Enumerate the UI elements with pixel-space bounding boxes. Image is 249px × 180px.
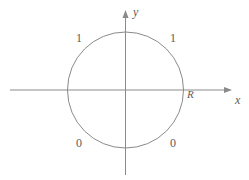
boundary-label-upper-left: 1 xyxy=(76,32,82,44)
boundary-label-lower-right: 0 xyxy=(170,137,176,149)
boundary-label-upper-right: 1 xyxy=(170,32,176,44)
y-axis-arrowhead-icon xyxy=(123,10,129,18)
radius-label: R xyxy=(187,89,194,100)
boundary-label-lower-left: 0 xyxy=(76,137,82,149)
y-axis-label: y xyxy=(133,6,138,18)
circle-boundary-value-diagram: 1 1 0 0 y x R xyxy=(0,0,249,180)
x-axis-label: x xyxy=(235,94,240,106)
x-axis-arrowhead-icon xyxy=(224,87,232,93)
diagram-canvas xyxy=(0,0,249,180)
